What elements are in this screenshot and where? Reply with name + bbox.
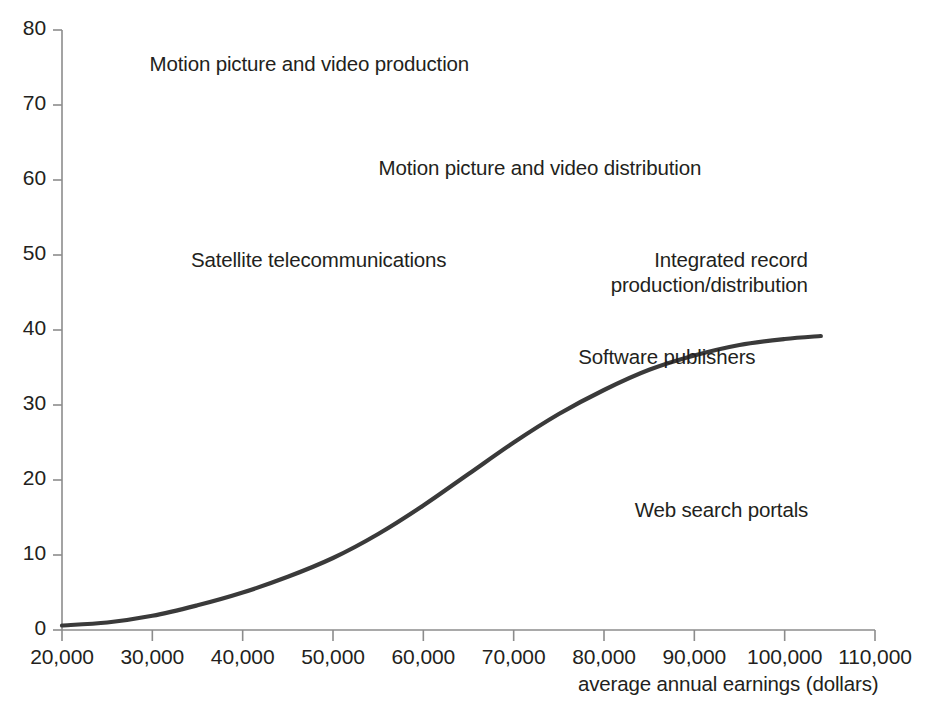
annotation-label-line: Integrated record	[611, 247, 808, 272]
y-axis-tick-label: 50	[0, 241, 46, 265]
annotation-label-line: production/distribution	[611, 272, 808, 297]
x-axis-title: average annual earnings (dollars)	[578, 672, 878, 696]
plot-canvas	[0, 0, 929, 726]
annotation-label: Integrated recordproduction/distribution	[611, 247, 808, 297]
annotation-label: Satellite telecommunications	[191, 247, 447, 272]
y-axis-tick-label: 70	[0, 91, 46, 115]
y-axis-tick-label: 60	[0, 166, 46, 190]
annotation-label: Motion picture and video production	[150, 51, 470, 76]
data-points	[66, 1, 533, 622]
scatter-chart: 01020304050607080 20,00030,00040,00050,0…	[0, 0, 929, 726]
annotation-label: Web search portals	[561, 497, 881, 522]
axes	[53, 30, 875, 641]
y-axis-tick-label: 40	[0, 316, 46, 340]
annotation-label: Motion picture and video distribution	[379, 155, 702, 180]
y-axis-tick-label: 0	[0, 616, 46, 640]
y-axis-tick-label: 30	[0, 391, 46, 415]
x-axis-tick-label: 110,000	[815, 645, 929, 669]
y-axis-tick-label: 10	[0, 541, 46, 565]
annotation-label: Software publishers	[578, 344, 755, 369]
trend-line	[62, 336, 821, 626]
y-axis-tick-label: 80	[0, 16, 46, 40]
y-axis-tick-label: 20	[0, 466, 46, 490]
